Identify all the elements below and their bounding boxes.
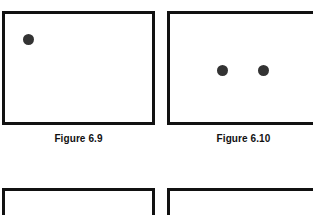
figure-dot bbox=[217, 65, 228, 76]
figure-dot bbox=[258, 65, 269, 76]
figure-sheet: Figure 6.9 Figure 6.10 bbox=[0, 0, 313, 215]
figure-caption-6-10: Figure 6.10 bbox=[165, 133, 313, 145]
figure-caption-6-9: Figure 6.9 bbox=[0, 133, 157, 145]
figure-dot bbox=[23, 34, 34, 45]
figure-box-6-10 bbox=[167, 11, 313, 125]
figure-box-6-9 bbox=[2, 11, 155, 125]
figure-box-next-right bbox=[167, 188, 313, 215]
figure-box-next-left bbox=[2, 188, 155, 215]
